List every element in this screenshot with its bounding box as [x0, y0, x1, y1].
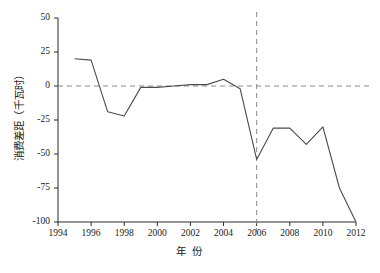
chart-figure: 50250-25-50-75-100 199419961998200020022…: [0, 0, 380, 273]
x-tick-label: 2012: [336, 229, 376, 239]
x-axis-ticks: [58, 222, 356, 226]
y-tick-label: 50: [0, 13, 50, 23]
y-axis-ticks: [54, 18, 58, 222]
y-axis-title: 消费差距（千瓦时）: [11, 41, 26, 191]
y-tick-label: -100: [0, 217, 50, 227]
x-axis-title: 年 份: [0, 243, 380, 258]
data-series-line: [75, 59, 356, 222]
axis-lines: [58, 18, 356, 222]
